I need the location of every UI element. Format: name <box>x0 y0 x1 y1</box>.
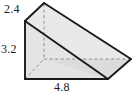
dimension-label-bottom-edge: 4.8 <box>54 81 70 93</box>
dimension-label-top-edge: 2.4 <box>4 3 20 15</box>
dimension-label-left-edge: 3.2 <box>1 43 17 55</box>
prism-figure: 2.4 3.2 4.8 <box>0 0 138 96</box>
